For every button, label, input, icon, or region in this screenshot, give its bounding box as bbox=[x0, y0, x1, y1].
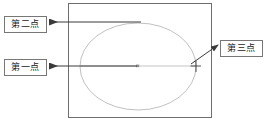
label-second-point: 第二点 bbox=[4, 16, 47, 33]
label-first-point: 第一点 bbox=[4, 59, 47, 76]
drawing-frame bbox=[69, 4, 212, 118]
label-first-point-text: 第一点 bbox=[11, 63, 40, 72]
label-third-point: 第三点 bbox=[220, 40, 263, 57]
diagram-root: 第二点 第一点 第三点 bbox=[0, 0, 266, 123]
label-third-point-text: 第三点 bbox=[227, 44, 256, 53]
label-second-point-text: 第二点 bbox=[11, 20, 40, 29]
